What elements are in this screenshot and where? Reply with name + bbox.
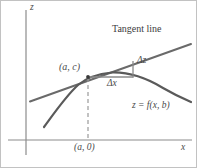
point-ac-label: (a, c) bbox=[59, 62, 80, 72]
figure-container: Tangent line (a, c) Δz Δx z = f(x, b) (a… bbox=[0, 0, 197, 168]
x-axis-label: x bbox=[181, 143, 185, 153]
delta-z-label: Δz bbox=[137, 56, 146, 66]
tangent-line-label: Tangent line bbox=[112, 24, 162, 34]
function-equation-label: z = f(x, b) bbox=[132, 101, 170, 111]
tangency-point-dot bbox=[86, 75, 90, 79]
figure-border bbox=[1, 1, 197, 168]
figure-canvas bbox=[0, 0, 197, 168]
delta-x-label: Δx bbox=[107, 79, 117, 89]
z-axis-label: z bbox=[30, 3, 34, 13]
point-a0-label: (a, 0) bbox=[74, 143, 95, 153]
